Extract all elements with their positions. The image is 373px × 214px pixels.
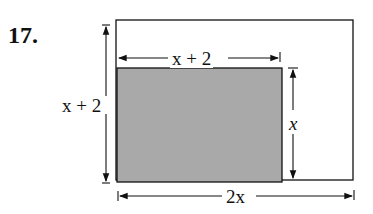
rectangle-diagram (0, 0, 373, 214)
top-width-label: x + 2 (170, 49, 213, 68)
bottom-width-label: 2x (224, 187, 247, 206)
shaded-rectangle (117, 68, 282, 182)
right-height-label: x (287, 114, 299, 133)
left-height-label: x + 2 (60, 96, 103, 115)
